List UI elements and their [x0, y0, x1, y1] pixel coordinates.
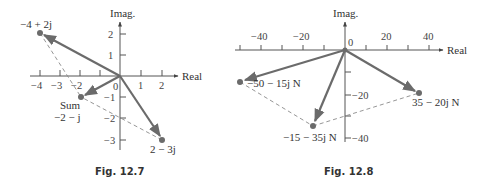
y-tick-label: −3 [104, 135, 115, 146]
x-tick-label: −4 [31, 80, 43, 91]
vector-label: −2 − j [54, 111, 80, 123]
vector-label: 2 − 3j [150, 143, 176, 155]
point-marker [310, 123, 316, 129]
x-tick-label: 40 [423, 31, 434, 42]
x-tick-label: −2 [71, 80, 82, 91]
x-tick-label: −20 [293, 31, 309, 42]
x-tick-label: 20 [381, 31, 392, 42]
y-ticks [120, 34, 126, 140]
point-marker [237, 79, 243, 85]
y-tick-label: −20 [352, 90, 368, 101]
vector-arrow [315, 50, 345, 121]
x-ticks [240, 45, 429, 50]
y-tick-label: −40 [352, 133, 368, 144]
x-tick-label: −40 [251, 31, 267, 42]
y-tick-label: −2 [104, 113, 115, 124]
y-ticks [345, 72, 351, 138]
vector-arrow [345, 50, 415, 91]
x-ticks [40, 70, 162, 76]
real-axis-label: Real [447, 44, 467, 56]
y-tick-label: 2 [108, 29, 113, 40]
y-tick-label: −1 [104, 92, 115, 103]
real-axis-label: Real [182, 70, 202, 82]
figure-12-8: Real Imag. −40 −20 0 20 40 −20 −40 [235, 7, 467, 177]
imag-axis-label: Imag. [110, 7, 136, 19]
sum-label: Sum [60, 99, 81, 111]
vector-arrow [245, 50, 345, 80]
vector-label: −15 − 35j N [283, 131, 337, 143]
origin-point [343, 48, 348, 53]
figure-caption: Fig. 12.7 [95, 166, 144, 177]
x-tick-label: 1 [138, 80, 143, 91]
dashed-construction-line [81, 97, 162, 140]
figure-12-7: Real Imag. −4 −3 −2 0 1 2 2 1 −1 −2 −3 [20, 7, 202, 177]
imag-axis-label: Imag. [333, 7, 359, 19]
x-tick-label: −3 [51, 80, 62, 91]
vector-label: −4 + 2j [20, 18, 52, 30]
origin-label: 0 [348, 37, 353, 48]
figure-caption: Fig. 12.8 [324, 166, 373, 177]
vector-label: 35 − 20j N [412, 96, 460, 108]
y-tick-label: 1 [108, 50, 113, 61]
vector-label: −50 − 15j N [247, 77, 301, 89]
origin-label: 0 [113, 81, 118, 92]
x-tick-label: 2 [159, 80, 164, 91]
diagram-canvas: Real Imag. −4 −3 −2 0 1 2 2 1 −1 −2 −3 [0, 0, 488, 186]
point-marker [37, 30, 43, 36]
